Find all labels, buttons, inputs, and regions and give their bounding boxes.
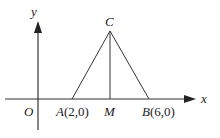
coordinate-diagram: y x O C A(2,0) M B(6,0) bbox=[0, 0, 220, 138]
origin-label: O bbox=[24, 104, 34, 119]
y-axis-label: y bbox=[29, 4, 37, 19]
point-a-label: A(2,0) bbox=[55, 104, 89, 119]
x-axis-label: x bbox=[200, 91, 207, 106]
point-a-coords: (2,0) bbox=[64, 104, 89, 119]
y-axis-arrow-icon bbox=[34, 21, 42, 33]
point-b-label: B(6,0) bbox=[142, 104, 175, 119]
point-a-name: A bbox=[55, 104, 64, 119]
point-m-label: M bbox=[103, 104, 116, 119]
segment-ac bbox=[72, 31, 110, 99]
point-c-label: C bbox=[105, 14, 114, 29]
x-axis-arrow-icon bbox=[184, 95, 196, 103]
segment-bc bbox=[110, 31, 149, 99]
point-b-coords: (6,0) bbox=[150, 104, 175, 119]
point-b-name: B bbox=[142, 104, 150, 119]
